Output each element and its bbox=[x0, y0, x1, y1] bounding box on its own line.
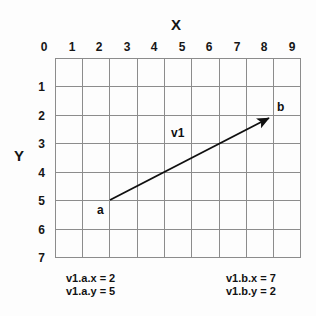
x-axis-title: X bbox=[0, 17, 316, 32]
plot-area: a b v1 bbox=[55, 58, 300, 258]
y-tick-2: 2 bbox=[23, 110, 45, 122]
vector-diagram-figure: X Y 0 1 2 3 4 5 6 7 8 9 1 2 3 4 5 6 7 bbox=[0, 0, 316, 316]
y-tick-3: 3 bbox=[23, 138, 45, 150]
vector-v1-arrow bbox=[55, 58, 301, 259]
x-tick-6: 6 bbox=[198, 41, 220, 53]
x-tick-9: 9 bbox=[281, 41, 303, 53]
y-tick-4: 4 bbox=[23, 167, 45, 179]
point-a-label: a bbox=[97, 204, 104, 216]
y-tick-6: 6 bbox=[23, 224, 45, 236]
y-tick-5: 5 bbox=[23, 195, 45, 207]
annotation-point-a: v1.a.x = 2 v1.a.y = 5 bbox=[66, 272, 115, 298]
x-tick-7: 7 bbox=[226, 41, 248, 53]
annotation-a-y: v1.a.y = 5 bbox=[66, 285, 115, 298]
annotation-point-b: v1.b.x = 7 v1.b.y = 2 bbox=[226, 272, 276, 298]
x-tick-2: 2 bbox=[88, 41, 110, 53]
point-b-label: b bbox=[277, 101, 284, 113]
annotation-a-x: v1.a.x = 2 bbox=[66, 272, 115, 285]
y-tick-7: 7 bbox=[23, 252, 45, 264]
annotation-b-x: v1.b.x = 7 bbox=[226, 272, 276, 285]
x-tick-0: 0 bbox=[33, 41, 55, 53]
x-tick-5: 5 bbox=[171, 41, 193, 53]
x-tick-8: 8 bbox=[253, 41, 275, 53]
annotation-b-y: v1.b.y = 2 bbox=[226, 285, 276, 298]
x-tick-1: 1 bbox=[61, 41, 83, 53]
vector-label-v1: v1 bbox=[171, 127, 184, 139]
y-axis-title: Y bbox=[8, 148, 30, 163]
y-tick-1: 1 bbox=[23, 81, 45, 93]
x-tick-4: 4 bbox=[143, 41, 165, 53]
x-tick-3: 3 bbox=[116, 41, 138, 53]
